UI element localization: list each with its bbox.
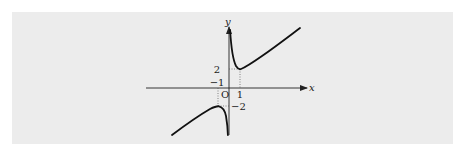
tick-label-y-2: 2 [214,64,220,75]
y-axis-label: y [224,16,231,27]
curve-left-branch [172,106,228,135]
origin-label: O [221,89,229,100]
tick-label-x-neg1: −1 [210,77,225,88]
x-axis-label: x [309,82,315,93]
tick-label-y-neg2: −2 [231,101,246,112]
function-graph: x y 2 −1 O 1 −2 [0,0,465,155]
curve-right-branch [230,28,300,69]
tick-label-x-1: 1 [237,89,243,100]
